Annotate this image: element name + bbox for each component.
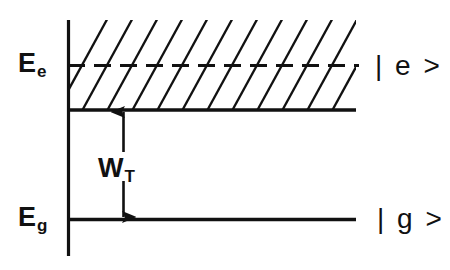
ground-state-ket-label: | g > — [377, 205, 444, 233]
excited-energy-subscript: e — [37, 62, 47, 81]
transition-energy-symbol: W — [98, 153, 124, 183]
ground-energy-label: Eg — [18, 204, 48, 234]
excited-energy-symbol: E — [18, 48, 37, 78]
transition-energy-label: WT — [98, 155, 135, 185]
ground-energy-subscript: g — [37, 216, 48, 235]
excited-energy-label: Ee — [18, 50, 47, 80]
transition-energy-subscript: T — [124, 167, 135, 186]
excited-state-ket-label: | e > — [375, 52, 442, 80]
ground-energy-symbol: E — [18, 202, 37, 232]
energy-level-diagram: Ee Eg WT | e > | g > — [0, 0, 450, 270]
